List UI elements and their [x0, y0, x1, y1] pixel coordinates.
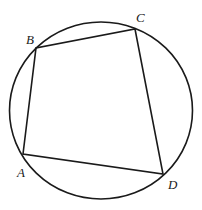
vertex-label-a: A — [16, 165, 25, 180]
cyclic-quadrilateral-diagram: A B C D — [0, 0, 202, 210]
quadrilateral-abcd — [23, 29, 163, 174]
vertex-label-d: D — [167, 177, 178, 192]
vertex-label-c: C — [136, 10, 145, 25]
vertex-label-b: B — [26, 32, 34, 47]
